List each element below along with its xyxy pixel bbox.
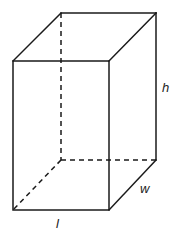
visible-edges bbox=[13, 13, 156, 210]
front-face bbox=[13, 61, 109, 210]
label-height: h bbox=[162, 80, 169, 95]
label-width: w bbox=[140, 181, 151, 196]
hidden-edge-bottom-left-depth bbox=[13, 160, 61, 210]
hidden-edges bbox=[13, 13, 156, 210]
edge-top-left-depth bbox=[13, 13, 61, 61]
label-length: l bbox=[56, 216, 60, 231]
rectangular-prism-diagram: h w l bbox=[0, 0, 174, 236]
edge-top-right-depth bbox=[109, 13, 156, 61]
